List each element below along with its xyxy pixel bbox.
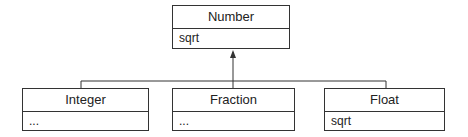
class-title: Fraction [173, 89, 294, 112]
class-title: Integer [23, 89, 148, 112]
class-members: sqrt [325, 112, 444, 132]
inheritance-arrowhead-icon [230, 50, 236, 58]
class-members: sqrt [173, 29, 289, 49]
class-number: Number sqrt [172, 5, 290, 49]
class-title: Float [325, 89, 444, 112]
class-integer: Integer ... [22, 88, 149, 131]
class-members: ... [173, 112, 294, 132]
class-float: Float sqrt [324, 88, 445, 131]
class-title: Number [173, 6, 289, 29]
class-fraction: Fraction ... [172, 88, 295, 131]
class-members: ... [23, 112, 148, 132]
